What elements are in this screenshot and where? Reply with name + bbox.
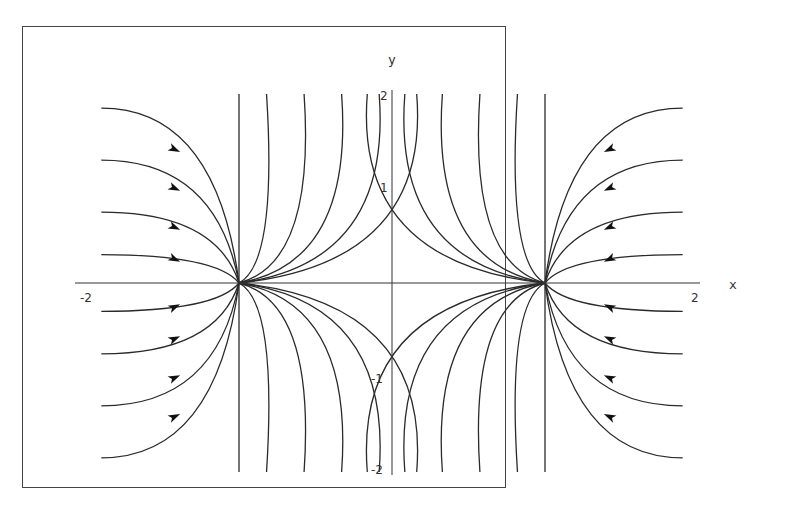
- phase-portrait: x y -2 2 2 1 -1 -2: [0, 0, 807, 514]
- x-axis-label: x: [729, 277, 737, 292]
- x-tick-2: 2: [691, 291, 699, 305]
- y-tick-neg2: -2: [371, 463, 383, 477]
- y-tick-neg1: -1: [371, 372, 383, 386]
- y-tick-1: 1: [380, 181, 388, 195]
- y-tick-2: 2: [380, 89, 388, 103]
- x-tick-neg2: -2: [80, 291, 92, 305]
- y-axis-label: y: [388, 52, 396, 67]
